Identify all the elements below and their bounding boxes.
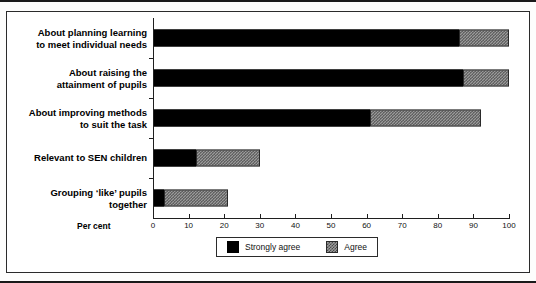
- x-axis-tick: [509, 214, 510, 218]
- plot-frame: About planning learning to meet individu…: [6, 11, 530, 273]
- legend-swatch-strongly-agree: [227, 241, 239, 253]
- x-axis-tick: [402, 214, 403, 218]
- stacked-bar[interactable]: [153, 150, 260, 167]
- y-axis-tick: [149, 98, 154, 99]
- chart-row: About raising the attainment of pupils: [7, 58, 529, 98]
- x-axis-tick-label: 100: [497, 221, 521, 230]
- chart-row: Grouping ‘like’ pupils together: [7, 178, 529, 218]
- category-label: Grouping ‘like’ pupils together: [7, 187, 147, 210]
- bar-segment-agree[interactable]: [463, 70, 509, 87]
- bar-track: [153, 150, 529, 167]
- x-axis-tick: [295, 214, 296, 218]
- bar-track: [153, 190, 529, 207]
- legend-swatch-agree: [326, 241, 338, 253]
- bar-segment-strongly-agree[interactable]: [153, 70, 463, 87]
- bar-track: [153, 110, 529, 127]
- x-axis-tick: [189, 214, 190, 218]
- x-axis-tick-label: 40: [283, 221, 307, 230]
- chart-row: About improving methods to suit the task: [7, 98, 529, 138]
- bar-segment-agree[interactable]: [196, 150, 260, 167]
- bar-segment-strongly-agree[interactable]: [153, 150, 196, 167]
- figure: About planning learning to meet individu…: [0, 0, 536, 283]
- stacked-bar[interactable]: [153, 30, 509, 47]
- bar-track: [153, 30, 529, 47]
- bar-segment-agree[interactable]: [164, 190, 228, 207]
- stacked-bar[interactable]: [153, 190, 228, 207]
- x-axis-tick: [260, 214, 261, 218]
- category-label: Relevant to SEN children: [7, 152, 147, 164]
- x-axis-tick-label: 10: [177, 221, 201, 230]
- x-axis-tick: [224, 214, 225, 218]
- x-axis-tick-label: 50: [319, 221, 343, 230]
- category-label: About planning learning to meet individu…: [7, 27, 147, 50]
- chart-row: Relevant to SEN children: [7, 138, 529, 178]
- bar-track: [153, 70, 529, 87]
- x-axis-tick: [473, 214, 474, 218]
- x-axis-tick-label: 60: [355, 221, 379, 230]
- bar-segment-strongly-agree[interactable]: [153, 110, 370, 127]
- chart-row: About planning learning to meet individu…: [7, 18, 529, 58]
- x-axis-tick: [153, 214, 154, 218]
- category-label: About raising the attainment of pupils: [7, 67, 147, 90]
- x-axis-tick-label: 30: [248, 221, 272, 230]
- x-axis-title: Per cent: [77, 221, 111, 231]
- x-axis-tick-label: 20: [212, 221, 236, 230]
- chart-legend: Strongly agree Agree: [216, 237, 378, 257]
- x-axis-line: [153, 218, 510, 219]
- stacked-bar[interactable]: [153, 70, 509, 87]
- legend-label: Strongly agree: [245, 242, 300, 252]
- y-axis-tick: [149, 58, 154, 59]
- bar-segment-strongly-agree[interactable]: [153, 30, 459, 47]
- bar-segment-agree[interactable]: [370, 110, 480, 127]
- stacked-bar[interactable]: [153, 110, 481, 127]
- legend-item-strongly-agree[interactable]: Strongly agree: [227, 241, 300, 253]
- x-axis-tick-label: 70: [390, 221, 414, 230]
- category-label: About improving methods to suit the task: [7, 107, 147, 130]
- bar-segment-strongly-agree[interactable]: [153, 190, 164, 207]
- legend-item-agree[interactable]: Agree: [326, 241, 367, 253]
- y-axis-tick: [149, 178, 154, 179]
- y-axis-line: [153, 18, 154, 218]
- x-axis-tick: [438, 214, 439, 218]
- y-axis-tick: [149, 138, 154, 139]
- legend-label: Agree: [344, 242, 367, 252]
- x-axis-tick: [331, 214, 332, 218]
- x-axis-tick-label: 0: [141, 221, 165, 230]
- x-axis-tick-label: 90: [461, 221, 485, 230]
- bar-segment-agree[interactable]: [459, 30, 509, 47]
- x-axis-tick: [367, 214, 368, 218]
- x-axis-tick-label: 80: [426, 221, 450, 230]
